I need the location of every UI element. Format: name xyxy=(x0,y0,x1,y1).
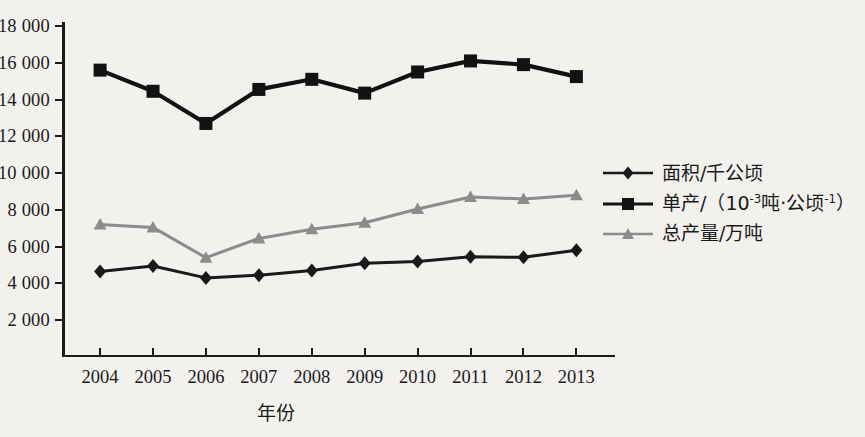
data-point xyxy=(253,268,265,282)
legend-label-yield: 单产/（10-3吨·公顷-1） xyxy=(662,193,855,214)
plot-area: 2 0004 0006 0008 00010 00012 00014 00016… xyxy=(62,26,615,357)
series-diamond xyxy=(94,243,582,285)
data-point xyxy=(252,83,265,96)
y-axis-tick xyxy=(55,282,62,284)
legend: 面积/千公顷 单产/（10-3吨·公顷-1） 总产量/万吨 xyxy=(602,163,855,244)
data-point xyxy=(517,58,530,71)
data-point xyxy=(570,70,583,83)
y-axis-tick xyxy=(55,135,62,137)
legend-yield-end: ） xyxy=(836,192,855,214)
diamond-marker-icon xyxy=(602,163,654,183)
x-axis-tick-label: 2005 xyxy=(135,367,172,388)
data-point xyxy=(570,243,582,257)
data-point xyxy=(147,85,160,98)
y-axis-tick-label: 16 000 xyxy=(0,52,50,73)
x-axis-tick-label: 2004 xyxy=(82,367,119,388)
legend-item-yield[interactable]: 单产/（10-3吨·公顷-1） xyxy=(602,193,855,214)
line-chart: 2 0004 0006 0008 00010 00012 00014 00016… xyxy=(0,0,865,437)
x-axis-tick-label: 2010 xyxy=(399,367,436,388)
y-axis-tick xyxy=(55,172,62,174)
y-axis-tick-label: 12 000 xyxy=(0,126,50,147)
legend-yield-sup2: -1 xyxy=(824,192,836,206)
legend-yield-mid: 吨·公顷 xyxy=(761,192,824,214)
y-axis-tick xyxy=(55,99,62,101)
x-axis-tick-label: 2009 xyxy=(346,367,383,388)
data-point xyxy=(94,265,106,279)
data-point xyxy=(306,264,318,278)
data-point xyxy=(199,117,212,130)
data-point xyxy=(465,250,477,264)
y-axis-tick xyxy=(55,319,62,321)
series-line xyxy=(100,61,576,124)
data-point xyxy=(411,65,424,78)
y-axis-tick xyxy=(55,209,62,211)
y-axis-tick-label: 14 000 xyxy=(0,89,50,110)
series-line xyxy=(100,250,576,278)
data-point xyxy=(94,64,107,77)
legend-yield-sup1: -3 xyxy=(750,192,762,206)
y-axis-tick xyxy=(55,246,62,248)
y-axis-tick-label: 18 000 xyxy=(0,16,50,37)
x-axis-tick-label: 2013 xyxy=(558,367,595,388)
x-axis-tick-label: 2012 xyxy=(505,367,542,388)
data-point xyxy=(518,250,530,264)
y-axis-tick-label: 8 000 xyxy=(7,199,50,220)
y-axis-tick xyxy=(55,25,62,27)
legend-item-total-output[interactable]: 总产量/万吨 xyxy=(602,223,855,244)
data-point xyxy=(359,256,371,270)
y-axis-tick-label: 4 000 xyxy=(7,273,50,294)
triangle-marker-icon xyxy=(602,224,654,244)
legend-yield-base: 单产/（10 xyxy=(662,192,750,214)
y-axis-tick-label: 6 000 xyxy=(7,236,50,257)
x-axis-tick-label: 2007 xyxy=(240,367,277,388)
data-point xyxy=(305,73,318,86)
series-triangle xyxy=(94,189,583,263)
y-axis-tick xyxy=(55,62,62,64)
y-axis-tick-label: 10 000 xyxy=(0,163,50,184)
series-layer xyxy=(62,26,615,357)
series-line xyxy=(100,195,576,258)
square-marker-icon xyxy=(602,194,654,214)
legend-item-area[interactable]: 面积/千公顷 xyxy=(602,163,855,184)
legend-label-area: 面积/千公顷 xyxy=(662,163,763,184)
y-axis-tick-label: 2 000 xyxy=(7,310,50,331)
data-point xyxy=(358,87,371,100)
data-point xyxy=(147,259,159,273)
legend-label-total-output: 总产量/万吨 xyxy=(662,223,763,244)
x-axis-tick-label: 2006 xyxy=(187,367,224,388)
data-point xyxy=(412,254,424,268)
data-point xyxy=(464,54,477,67)
x-axis-tick-label: 2008 xyxy=(293,367,330,388)
x-axis-title: 年份 xyxy=(257,398,295,425)
series-square xyxy=(94,54,583,130)
x-axis-tick-label: 2011 xyxy=(452,367,488,388)
data-point xyxy=(200,271,212,285)
